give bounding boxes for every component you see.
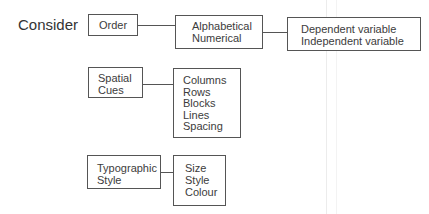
typographic-connector [161,172,173,173]
typographic-options-box: Size Style Colour [173,155,226,206]
spatial-label: Spatial [98,72,142,84]
option-spacing: Spacing [183,121,240,133]
option-alphabetical: Alphabetical [192,20,262,32]
order-box: Order [88,14,138,36]
spatial-options-box: Columns Rows Blocks Lines Spacing [173,68,241,138]
style-label: Style [97,174,160,186]
order-options-box: Alphabetical Numerical [175,15,263,49]
diagram-heading: Consider [18,16,78,33]
option-style: Style [185,174,225,186]
option-columns: Columns [183,75,240,87]
order-connector [138,25,175,26]
typographic-style-box: Typographic Style [87,155,161,189]
spatial-cues-box: Spatial Cues [88,67,143,98]
option-numerical: Numerical [192,32,262,44]
order-options-connector [263,32,287,33]
detail-independent-variable: Independent variable [301,35,420,47]
detail-dependent-variable: Dependent variable [301,23,420,35]
variable-box: Dependent variable Independent variable [287,17,421,51]
option-colour: Colour [185,186,225,198]
typographic-label: Typographic [97,162,160,174]
option-size: Size [185,162,225,174]
spatial-cues-connector [143,84,173,85]
order-label: Order [99,19,137,31]
cues-label: Cues [98,84,142,96]
